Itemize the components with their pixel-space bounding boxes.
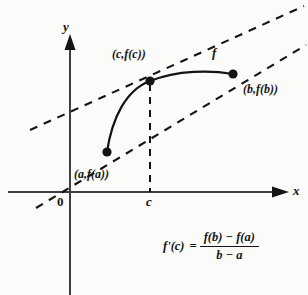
tangent-line-at-c bbox=[30, 6, 304, 130]
point-c-dot bbox=[145, 76, 154, 85]
point-a-dot bbox=[102, 147, 111, 156]
curve-f-label: f bbox=[212, 46, 216, 59]
x-tick-label-c: c bbox=[146, 195, 152, 208]
formula-fraction: f(b) − f(a) b − a bbox=[200, 230, 259, 263]
x-axis-label: x bbox=[293, 184, 300, 197]
point-b-label: (b,f(b)) bbox=[243, 83, 278, 95]
y-axis-label: y bbox=[63, 20, 69, 33]
figure-canvas bbox=[0, 0, 308, 295]
origin-label: 0 bbox=[57, 195, 64, 208]
mean-value-theorem-figure: y x 0 c (c,f(c)) (a,f(a)) (b,f(b)) f f'(… bbox=[0, 0, 308, 295]
point-a-label: (a,f(a)) bbox=[74, 168, 109, 180]
point-b-dot bbox=[228, 69, 237, 78]
formula-denominator: b − a bbox=[212, 247, 246, 263]
formula-left-hand-side: f'(c) bbox=[163, 239, 185, 254]
mvt-formula: f'(c) = f(b) − f(a) b − a bbox=[163, 230, 259, 263]
formula-equals-sign: = bbox=[190, 239, 197, 254]
secant-line-ab bbox=[36, 45, 306, 208]
formula-numerator: f(b) − f(a) bbox=[200, 230, 259, 247]
curve-f bbox=[107, 72, 233, 152]
point-c-label: (c,f(c)) bbox=[112, 48, 146, 60]
y-axis-arrowhead bbox=[65, 34, 76, 50]
x-axis-arrowhead bbox=[272, 187, 289, 198]
